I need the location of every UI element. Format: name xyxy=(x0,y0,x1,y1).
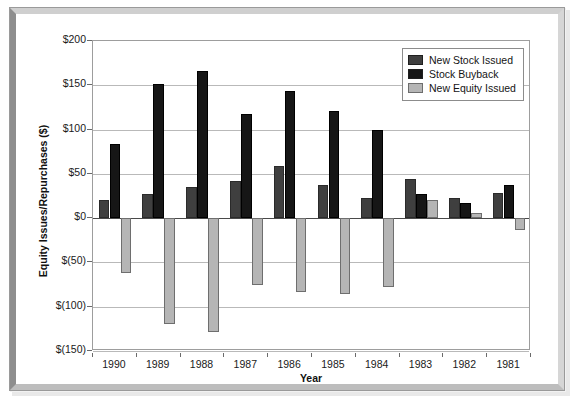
bar xyxy=(164,218,175,323)
chart-legend: New Stock IssuedStock BuybackNew Equity … xyxy=(402,48,524,101)
bar xyxy=(274,166,285,218)
bar xyxy=(493,193,504,218)
bar xyxy=(318,185,329,218)
y-tick-label: $150 xyxy=(0,77,86,89)
bar xyxy=(241,114,252,219)
bar xyxy=(383,218,394,287)
legend-label: Stock Buyback xyxy=(429,68,498,80)
bar xyxy=(416,194,427,218)
bar xyxy=(99,200,110,218)
x-tick-label: 1990 xyxy=(89,358,139,370)
y-tick-label: $0 xyxy=(0,210,86,222)
y-tick-label: $(50) xyxy=(0,254,86,266)
x-axis-tick-labels: 1990198919881987198619851984198319821981 xyxy=(92,353,530,371)
bar xyxy=(329,111,340,218)
x-axis-title: Year xyxy=(92,372,530,384)
bar xyxy=(471,213,482,218)
zero-baseline xyxy=(93,218,529,219)
legend-swatch-icon xyxy=(408,69,423,79)
bar xyxy=(504,185,515,218)
x-tick-label: 1984 xyxy=(352,358,402,370)
x-tick-mark xyxy=(530,353,531,357)
x-tick-mark xyxy=(92,353,93,357)
bar xyxy=(427,200,438,219)
bar xyxy=(153,84,164,219)
legend-swatch-icon xyxy=(408,83,423,93)
x-tick-mark xyxy=(311,353,312,357)
x-tick-label: 1989 xyxy=(133,358,183,370)
bar xyxy=(361,198,372,218)
y-tick-label: $(150) xyxy=(0,343,86,355)
x-tick-mark xyxy=(486,353,487,357)
bar xyxy=(142,194,153,218)
bar xyxy=(208,218,219,332)
bar xyxy=(121,218,132,273)
gridline xyxy=(93,351,529,352)
bar xyxy=(285,91,296,219)
x-tick-label: 1986 xyxy=(264,358,314,370)
bar xyxy=(460,203,471,218)
bar xyxy=(230,181,241,218)
bar xyxy=(252,218,263,285)
x-tick-label: 1988 xyxy=(177,358,227,370)
bar xyxy=(405,179,416,218)
x-tick-mark xyxy=(267,353,268,357)
x-tick-mark xyxy=(180,353,181,357)
y-tick-mark xyxy=(87,350,92,351)
legend-swatch-icon xyxy=(408,55,423,65)
y-tick-label: $200 xyxy=(0,33,86,45)
x-tick-label: 1983 xyxy=(396,358,446,370)
gridline xyxy=(93,307,529,308)
bar xyxy=(340,218,351,294)
legend-label: New Stock Issued xyxy=(429,54,513,66)
y-tick-label: $(100) xyxy=(0,299,86,311)
x-tick-mark xyxy=(442,353,443,357)
x-tick-label: 1985 xyxy=(308,358,358,370)
x-tick-mark xyxy=(223,353,224,357)
x-tick-mark xyxy=(136,353,137,357)
legend-label: New Equity Issued xyxy=(429,82,516,94)
legend-item: Stock Buyback xyxy=(408,67,516,81)
bar xyxy=(186,187,197,218)
x-tick-label: 1982 xyxy=(439,358,489,370)
bar xyxy=(515,218,526,230)
bar xyxy=(197,71,208,218)
bar xyxy=(296,218,307,292)
bar xyxy=(372,130,383,219)
x-tick-mark xyxy=(355,353,356,357)
x-tick-label: 1987 xyxy=(220,358,270,370)
legend-item: New Equity Issued xyxy=(408,81,516,95)
gridline xyxy=(93,262,529,263)
bar xyxy=(110,144,121,218)
legend-item: New Stock Issued xyxy=(408,53,516,67)
x-tick-label: 1981 xyxy=(483,358,533,370)
equity-issues-repurchases-chart: Equity Issues/Repurchases ($) $200$150$1… xyxy=(0,0,580,406)
y-tick-label: $100 xyxy=(0,122,86,134)
x-tick-mark xyxy=(399,353,400,357)
y-tick-label: $50 xyxy=(0,166,86,178)
bar xyxy=(449,198,460,218)
